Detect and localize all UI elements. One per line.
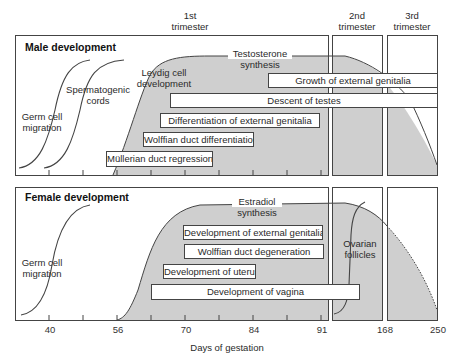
spermatogenic-cords-label: Spermatogenic cords	[66, 84, 130, 106]
x-tick-70: 70	[181, 324, 192, 335]
female-panel-title: Female development	[25, 191, 129, 203]
bar-descent-of-testes: Descent of testes	[170, 93, 437, 108]
label-line: Testosterone	[228, 48, 292, 59]
trimester-2-number: 2nd	[332, 10, 382, 21]
diagram-graphics	[0, 0, 454, 362]
bar-mullerian-duct-regression: Müllerian duct regression	[106, 151, 213, 167]
male-panel-title: Male development	[25, 41, 116, 53]
leydig-cell-label: Leydig cell development	[136, 67, 192, 89]
label-line: Spermatogenic	[66, 84, 130, 95]
label-line: synthesis	[232, 207, 282, 218]
x-tick-250: 250	[430, 324, 446, 335]
estradiol-synthesis-label: Estradiol synthesis	[232, 196, 282, 218]
trimester-1-number: 1st	[165, 10, 215, 21]
female-germ-cell-label: Germ cell migration	[20, 257, 64, 279]
x-tick-84: 84	[249, 324, 260, 335]
x-tick-168: 168	[377, 324, 393, 335]
trimester-1-word: trimester	[165, 21, 215, 32]
female-shaded-area	[117, 203, 437, 320]
label-line: follicles	[335, 249, 385, 260]
label-line: Ovarian	[335, 238, 385, 249]
bar-differentiation-external-genitalia: Differentiation of external genitalia	[160, 113, 320, 128]
label-line: migration	[20, 268, 64, 279]
bar-growth-external-genitalia: Growth of external genitalia	[268, 73, 437, 88]
trimester-1-label: 1st trimester	[165, 10, 215, 32]
x-tick-91: 91	[317, 324, 328, 335]
label-line: Germ cell	[20, 111, 64, 122]
bar-development-of-uterus: Development of uterus	[163, 264, 256, 279]
male-germ-cell-label: Germ cell migration	[20, 111, 64, 133]
trimester-2-word: trimester	[332, 21, 382, 32]
trimester-2-label: 2nd trimester	[332, 10, 382, 32]
bar-wolffian-duct-differentiation: Wolffian duct differentiation	[143, 132, 254, 147]
label-line: development	[136, 78, 192, 89]
x-axis-label: Days of gestation	[177, 342, 277, 353]
label-line: synthesis	[228, 59, 292, 70]
label-line: migration	[20, 122, 64, 133]
x-tick-56: 56	[113, 324, 124, 335]
label-line: Estradiol	[232, 196, 282, 207]
trimester-3-label: 3rd trimester	[387, 10, 437, 32]
bar-development-of-vagina: Development of vagina	[151, 284, 360, 300]
x-tick-40: 40	[45, 324, 56, 335]
ovarian-follicles-label: Ovarian follicles	[335, 238, 385, 260]
testosterone-synthesis-label: Testosterone synthesis	[228, 48, 292, 70]
bar-development-external-genitalia: Development of external genitalia	[183, 225, 323, 240]
label-line: Germ cell	[20, 257, 64, 268]
label-line: Leydig cell	[136, 67, 192, 78]
trimester-3-word: trimester	[387, 21, 437, 32]
bar-wolffian-duct-degeneration: Wolffian duct degeneration	[184, 244, 324, 259]
trimester-3-number: 3rd	[387, 10, 437, 21]
label-line: cords	[66, 95, 130, 106]
